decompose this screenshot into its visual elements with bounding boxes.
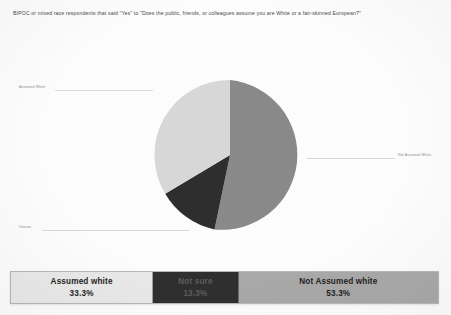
legend-label-not-sure: Not sure [178, 276, 212, 288]
legend-table: Assumed white 33.3% Not sure 13.3% Not A… [10, 271, 439, 304]
legend-cell-not-sure[interactable]: Not sure 13.3% [153, 272, 238, 303]
legend-label-assumed-white: Assumed white [51, 276, 113, 288]
legend-cell-assumed-white[interactable]: Assumed white 33.3% [11, 272, 153, 303]
leader-line-assumed-white [55, 90, 153, 91]
legend-value-assumed-white: 33.3% [70, 288, 94, 300]
legend-value-not-sure: 13.3% [183, 288, 207, 300]
slice-callout-assumed-white: Assumed White [19, 85, 45, 90]
legend-value-not-assumed-white: 53.3% [326, 288, 350, 300]
leader-line-not-assumed-white [307, 158, 395, 159]
slice-callout-not-assumed-white: Not Assumed White [398, 153, 431, 158]
legend-label-not-assumed-white: Not Assumed white [299, 276, 377, 288]
pie-chart: Assumed White Unsure Not Assumed White [0, 0, 451, 268]
chart-page: BIPOC or mixed race respondents that sai… [0, 0, 451, 315]
leader-line-unsure [42, 230, 190, 231]
legend-cell-not-assumed-white[interactable]: Not Assumed white 53.3% [239, 272, 438, 303]
slice-callout-unsure: Unsure [19, 225, 31, 230]
pie-chart-svg [0, 0, 451, 268]
